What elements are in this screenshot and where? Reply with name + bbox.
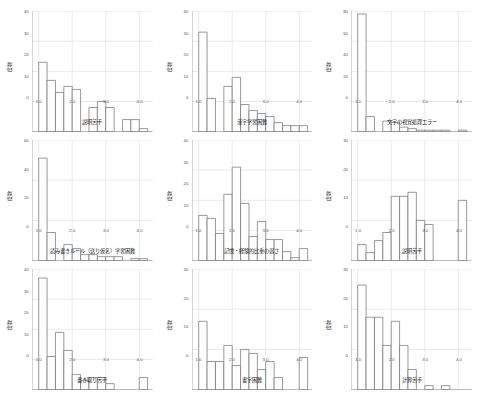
y-tick-label: 30 — [343, 138, 348, 143]
x-tick-label: 2.0 — [389, 228, 395, 233]
y-axis-label: 度数 — [5, 191, 12, 201]
x-axis-title: 文字の視覚処理エラー — [351, 118, 472, 125]
y-tick-label: 30 — [184, 267, 189, 272]
histogram-panel-1: 度数 1.02.03.04.0010203040 漢字学習困難 — [162, 2, 322, 131]
x-tick-label: 3.0 — [263, 228, 269, 233]
y-tick-label: 30 — [24, 288, 29, 293]
histogram-panel-2: 度数 1.02.03.04.0020406080 文字の視覚処理エラー — [321, 2, 481, 131]
x-tick-label: 3.0 — [422, 99, 428, 104]
x-tick-label: 4.0 — [137, 228, 143, 233]
x-tick-label: 3.0 — [263, 99, 269, 104]
plot-area: 1.02.03.04.0010203040 — [32, 269, 153, 355]
y-axis-label: 度数 — [5, 62, 12, 72]
y-tick-label: 30 — [343, 267, 348, 272]
plot-area: 1.02.03.04.0010203040 — [32, 11, 153, 97]
y-tick-label: 60 — [343, 30, 348, 35]
y-tick-label: 10 — [24, 331, 29, 336]
y-tick-label: 10 — [184, 324, 189, 329]
x-tick-label: 1.0 — [36, 357, 42, 362]
plot-svg — [351, 140, 472, 261]
x-tick-label: 1.0 — [195, 99, 201, 104]
y-tick-label: 20 — [343, 166, 348, 171]
y-tick-label: 20 — [24, 310, 29, 315]
y-tick-label: 0 — [26, 353, 28, 358]
y-tick-label: 40 — [184, 9, 189, 14]
x-tick-label: 4.0 — [137, 99, 143, 104]
plot-area: 1.02.03.04.0010203040 — [192, 140, 313, 226]
y-tick-label: 10 — [24, 73, 29, 78]
x-tick-label: 1.0 — [195, 228, 201, 233]
x-axis-title: 漢字学習困難 — [192, 118, 313, 125]
x-tick-label: 2.0 — [389, 357, 395, 362]
x-tick-label: 1.0 — [355, 99, 361, 104]
y-tick-label: 40 — [24, 267, 29, 272]
plot-area: 1.02.03.04.0020406080 — [351, 11, 472, 97]
y-axis-label: 度数 — [164, 191, 171, 201]
histogram-panel-4: 度数 1.02.03.04.0010203040 記憶・経験的比重の弱さ — [162, 131, 322, 260]
x-axis-title: 計算苦手 — [351, 376, 472, 383]
y-tick-label: 0 — [26, 224, 28, 229]
x-tick-label: 4.0 — [456, 357, 462, 362]
plot-area: 1.02.03.04.00102030 — [351, 140, 472, 226]
x-tick-label: 3.0 — [263, 357, 269, 362]
plot-area: 1.02.03.04.00102030 — [192, 269, 313, 355]
x-tick-label: 4.0 — [456, 228, 462, 233]
x-tick-label: 3.0 — [103, 99, 109, 104]
x-axis-title: 説明苦手 — [32, 118, 153, 125]
x-tick-label: 2.0 — [389, 99, 395, 104]
y-tick-label: 40 — [343, 52, 348, 57]
histogram-grid: 度数 1.02.03.04.0010203040 説明苦手 度数 1.02.03… — [0, 0, 485, 393]
y-axis-label: 度数 — [324, 191, 331, 201]
y-tick-label: 30 — [24, 30, 29, 35]
histogram-panel-6: 度数 1.02.03.04.0010203040 書き取り苦手 — [2, 260, 162, 389]
y-tick-label: 20 — [184, 181, 189, 186]
x-tick-label: 2.0 — [229, 99, 235, 104]
y-axis-label: 度数 — [164, 62, 171, 72]
plot-svg — [351, 269, 472, 390]
y-tick-label: 60 — [24, 138, 29, 143]
y-axis-label: 度数 — [164, 320, 171, 330]
plot-svg — [192, 269, 313, 390]
x-tick-label: 4.0 — [296, 99, 302, 104]
x-tick-label: 4.0 — [296, 228, 302, 233]
x-tick-label: 4.0 — [137, 357, 143, 362]
plot-svg — [32, 11, 153, 132]
y-tick-label: 30 — [184, 30, 189, 35]
y-tick-label: 20 — [184, 295, 189, 300]
x-tick-label: 3.0 — [422, 228, 428, 233]
y-tick-label: 20 — [184, 52, 189, 57]
x-tick-label: 2.0 — [69, 99, 75, 104]
plot-svg — [192, 11, 313, 132]
x-tick-label: 2.0 — [69, 228, 75, 233]
x-axis-title: 記憶・経験的比重の弱さ — [192, 247, 313, 254]
plot-svg — [192, 140, 313, 261]
y-tick-label: 0 — [26, 95, 28, 100]
x-axis-title: 書字困難 — [192, 376, 313, 383]
plot-area: 1.02.03.04.00102030 — [351, 269, 472, 355]
y-tick-label: 30 — [184, 159, 189, 164]
histogram-panel-3: 度数 1.02.03.04.00204060 読み書きルール（送り仮名）学習困難 — [2, 131, 162, 260]
x-tick-label: 3.0 — [103, 228, 109, 233]
y-tick-label: 40 — [24, 9, 29, 14]
y-tick-label: 40 — [184, 138, 189, 143]
x-tick-label: 3.0 — [422, 357, 428, 362]
x-tick-label: 1.0 — [355, 357, 361, 362]
x-axis-title: 読み書きルール（送り仮名）学習困難 — [32, 247, 153, 254]
histogram-panel-7: 度数 1.02.03.04.00102030 書字困難 — [162, 260, 322, 389]
x-tick-label: 1.0 — [195, 357, 201, 362]
y-tick-label: 0 — [186, 95, 188, 100]
y-tick-label: 80 — [343, 9, 348, 14]
x-tick-label: 1.0 — [355, 228, 361, 233]
histogram-panel-5: 度数 1.02.03.04.00102030 説明苦手 — [321, 131, 481, 260]
y-tick-label: 40 — [24, 166, 29, 171]
plot-area: 1.02.03.04.00204060 — [32, 140, 153, 226]
x-tick-label: 1.0 — [36, 228, 42, 233]
x-axis-title: 書き取り苦手 — [32, 376, 153, 383]
y-tick-label: 20 — [343, 73, 348, 78]
y-tick-label: 0 — [186, 224, 188, 229]
y-tick-label: 10 — [184, 202, 189, 207]
x-tick-label: 2.0 — [229, 228, 235, 233]
y-tick-label: 10 — [184, 73, 189, 78]
x-tick-label: 1.0 — [36, 99, 42, 104]
x-tick-label: 4.0 — [296, 357, 302, 362]
